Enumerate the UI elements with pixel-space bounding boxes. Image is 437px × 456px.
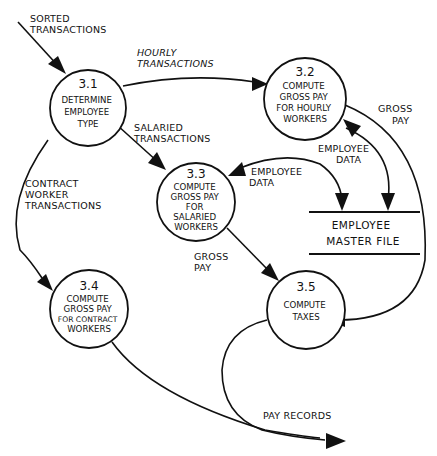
flow-label: SALARIED TRANSACTIONS	[133, 122, 210, 144]
flow-label: SORTED TRANSACTIONS	[29, 13, 106, 35]
process-3-4-gross-pay-contract: 3.4 COMPUTE GROSS PAY FOR CONTRACT WORKE…	[50, 270, 128, 348]
flow-label: GROSS PAY	[194, 251, 232, 273]
process-3-5-compute-taxes: 3.5 COMPUTE TAXES	[267, 271, 345, 349]
flow-employee-data-salaried: EMPLOYEE DATA	[228, 158, 349, 211]
process-3-1-determine-employee-type: 3.1 DETERMINE EMPLOYEE TYPE	[50, 70, 126, 146]
flow-contract-worker-transactions: CONTRACT WORKER TRANSACTIONS	[16, 140, 101, 291]
flow-hourly-transactions: HOURLY TRANSACTIONS	[123, 47, 268, 91]
flow-contract-output	[112, 342, 320, 438]
svg-text:3.5: 3.5	[296, 280, 315, 294]
process-label: COMPUTE GROSS PAY FOR HOURLY WORKERS	[276, 81, 334, 124]
process-3-3-gross-pay-salaried: 3.3 COMPUTE GROSS PAY FOR SALARIED WORKE…	[157, 163, 235, 241]
svg-text:3.4: 3.4	[79, 279, 98, 293]
svg-text:3.3: 3.3	[186, 167, 205, 181]
svg-text:3.2: 3.2	[295, 65, 314, 79]
svg-text:3.1: 3.1	[78, 77, 97, 91]
flow-label: CONTRACT WORKER TRANSACTIONS	[24, 178, 101, 211]
flow-sorted-transactions: SORTED TRANSACTIONS	[18, 13, 106, 74]
data-store-label: EMPLOYEE MASTER FILE	[326, 219, 400, 247]
flow-label: EMPLOYEE DATA	[318, 143, 372, 165]
data-store-employee-master-file: EMPLOYEE MASTER FILE	[309, 212, 420, 254]
flow-label: GROSS PAY	[378, 103, 416, 126]
flow-label: EMPLOYEE DATA	[249, 166, 305, 188]
flow-label: HOURLY TRANSACTIONS	[137, 47, 214, 69]
process-3-2-gross-pay-hourly: 3.2 COMPUTE GROSS PAY FOR HOURLY WORKERS	[264, 58, 346, 140]
flow-label: PAY RECORDS	[263, 410, 332, 421]
data-flow-diagram: SORTED TRANSACTIONS HOURLY TRANSACTIONS …	[0, 0, 437, 456]
